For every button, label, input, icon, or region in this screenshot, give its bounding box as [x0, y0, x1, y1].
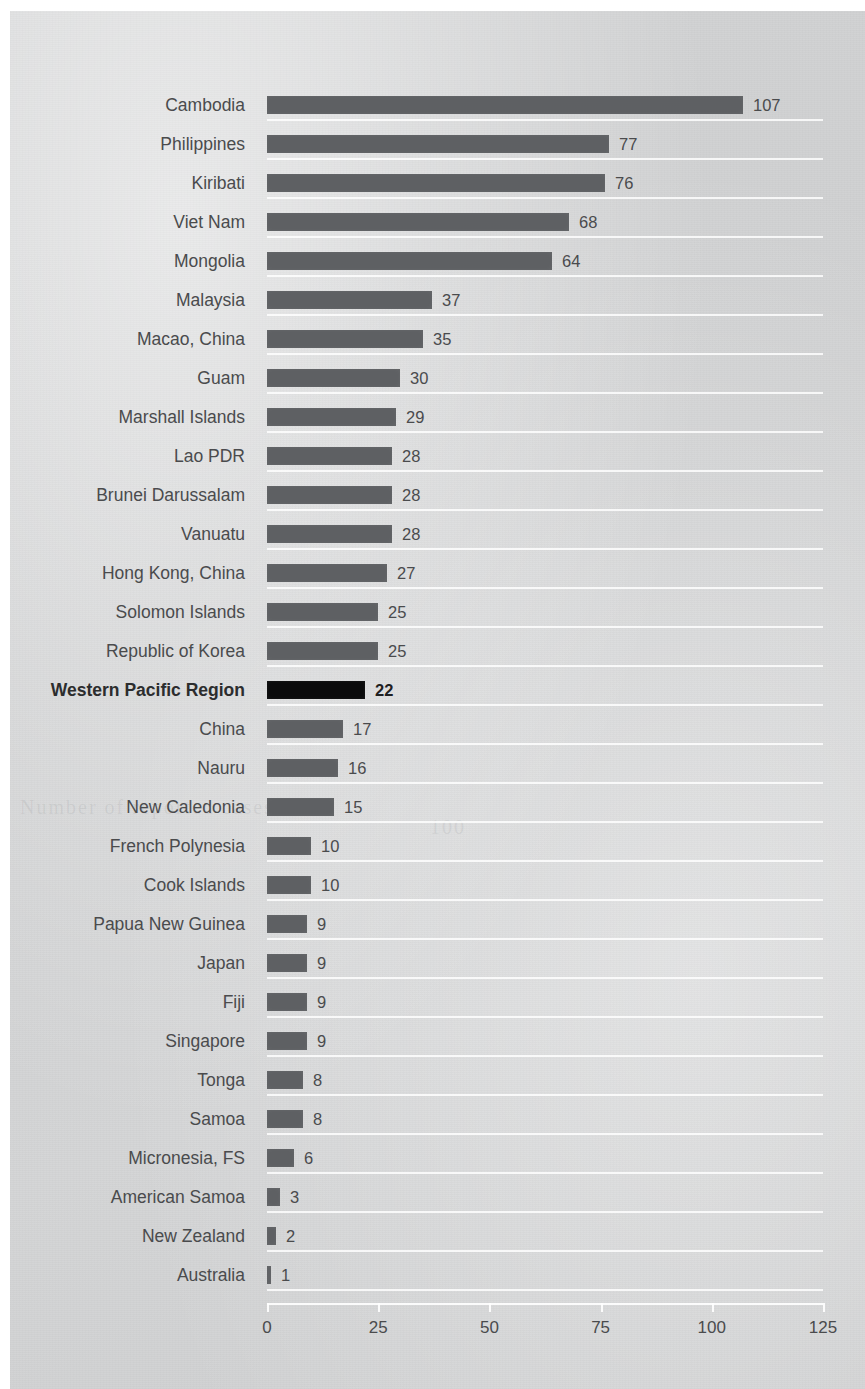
bar-value-label: 9: [317, 1032, 326, 1050]
category-label: Hong Kong, China: [0, 563, 245, 584]
bar: [267, 1071, 303, 1089]
category-label: Tonga: [0, 1070, 245, 1091]
category-label: Vanuatu: [0, 524, 245, 545]
bar: [267, 1188, 280, 1206]
category-label: Australia: [0, 1265, 245, 1286]
bar-value-label: 35: [433, 330, 451, 348]
category-label: Viet Nam: [0, 212, 245, 233]
bar: [267, 915, 307, 933]
category-label: French Polynesia: [0, 836, 245, 857]
category-label: Singapore: [0, 1031, 245, 1052]
horizontal-bar-chart: Cambodia107Philippines77Kiribati76Viet N…: [0, 0, 865, 1389]
bar: [267, 759, 338, 777]
bar-value-label: 15: [344, 798, 362, 816]
gridline: [267, 821, 823, 823]
x-axis-tick-label: 50: [480, 1318, 499, 1338]
bar-value-label: 9: [317, 993, 326, 1011]
x-axis-tick: [378, 1303, 380, 1312]
category-label: Japan: [0, 953, 245, 974]
x-axis-tick-label: 75: [591, 1318, 610, 1338]
bar-value-label: 8: [313, 1110, 322, 1128]
bar: [267, 837, 311, 855]
gridline: [267, 119, 823, 121]
bar-value-label: 3: [290, 1188, 299, 1206]
bar: [267, 330, 423, 348]
category-label: Samoa: [0, 1109, 245, 1130]
gridline: [267, 275, 823, 277]
gridline: [267, 743, 823, 745]
gridline: [267, 1211, 823, 1213]
category-label: Brunei Darussalam: [0, 485, 245, 506]
category-label: Malaysia: [0, 290, 245, 311]
bar-value-label: 30: [410, 369, 428, 387]
bar-value-label: 2: [286, 1227, 295, 1245]
gridline: [267, 314, 823, 316]
category-label: Cambodia: [0, 95, 245, 116]
gridline: [267, 899, 823, 901]
bar-value-label: 68: [579, 213, 597, 231]
category-label: Micronesia, FS: [0, 1148, 245, 1169]
bar-value-label: 10: [321, 876, 339, 894]
category-label: New Zealand: [0, 1226, 245, 1247]
bar-value-label: 29: [406, 408, 424, 426]
bar: [267, 135, 609, 153]
category-label: Philippines: [0, 134, 245, 155]
gridline: [267, 587, 823, 589]
bar: [267, 1266, 271, 1284]
bar: [267, 603, 378, 621]
bar: [267, 252, 552, 270]
gridline: [267, 470, 823, 472]
gridline: [267, 548, 823, 550]
category-label: Fiji: [0, 992, 245, 1013]
gridline: [267, 626, 823, 628]
category-label: Macao, China: [0, 329, 245, 350]
gridline: [267, 1250, 823, 1252]
gridline: [267, 1016, 823, 1018]
category-label: Cook Islands: [0, 875, 245, 896]
x-axis-tick-label: 125: [809, 1318, 837, 1338]
gridline: [267, 236, 823, 238]
bar-value-label: 16: [348, 759, 366, 777]
x-axis-tick: [267, 1303, 269, 1312]
gridline: [267, 1055, 823, 1057]
x-axis-tick-label: 0: [262, 1318, 271, 1338]
bar: [267, 876, 311, 894]
category-label: Lao PDR: [0, 446, 245, 467]
bar: [267, 96, 743, 114]
bar-value-label: 10: [321, 837, 339, 855]
bar: [267, 1032, 307, 1050]
bar-value-label: 6: [304, 1149, 313, 1167]
category-label: Kiribati: [0, 173, 245, 194]
bar-value-label: 64: [562, 252, 580, 270]
category-label: China: [0, 719, 245, 740]
category-label: Western Pacific Region: [0, 680, 245, 701]
gridline: [267, 782, 823, 784]
bar: [267, 1149, 294, 1167]
bar: [267, 486, 392, 504]
bar-value-label: 28: [402, 447, 420, 465]
category-label: New Caledonia: [0, 797, 245, 818]
bar-value-label: 28: [402, 486, 420, 504]
x-axis-tick: [823, 1303, 825, 1312]
x-axis-line: [267, 1303, 823, 1305]
gridline: [267, 509, 823, 511]
gridline: [267, 665, 823, 667]
x-axis-tick: [489, 1303, 491, 1312]
category-label: Mongolia: [0, 251, 245, 272]
bar-value-label: 28: [402, 525, 420, 543]
bar-value-label: 8: [313, 1071, 322, 1089]
bar-value-label: 22: [375, 681, 393, 699]
gridline: [267, 1133, 823, 1135]
bar: [267, 720, 343, 738]
bar-value-label: 9: [317, 954, 326, 972]
bar: [267, 213, 569, 231]
bar-value-label: 107: [753, 96, 781, 114]
gridline: [267, 860, 823, 862]
bar: [267, 1110, 303, 1128]
x-axis-tick: [712, 1303, 714, 1312]
category-label: Republic of Korea: [0, 641, 245, 662]
x-axis-tick-label: 25: [369, 1318, 388, 1338]
bar-value-label: 1: [281, 1266, 290, 1284]
category-label: Marshall Islands: [0, 407, 245, 428]
bar-value-label: 25: [388, 603, 406, 621]
